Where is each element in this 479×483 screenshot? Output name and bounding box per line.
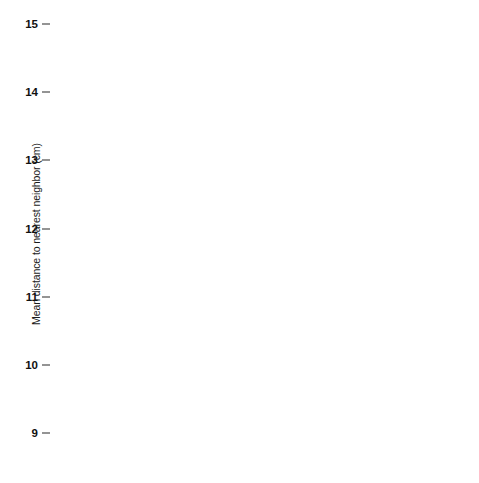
y-axis-tick-10: 10 (16, 359, 38, 371)
y-axis-tick-14: 14 (16, 86, 38, 98)
y-axis-tick-9: 9 (16, 427, 38, 439)
y-axis-tick-11: 11 (16, 291, 38, 303)
y-axis-tick-12: 12 (16, 223, 38, 235)
left-panel (43, 0, 228, 483)
right-panel (264, 0, 471, 483)
bar-chart-figure: Mean distance to nearest neighbor (cm) 9… (0, 0, 479, 483)
y-axis-tick-15: 15 (16, 18, 38, 30)
y-axis-tick-labels: 9101112131415 (10, 0, 38, 483)
y-axis-tick-13: 13 (16, 154, 38, 166)
